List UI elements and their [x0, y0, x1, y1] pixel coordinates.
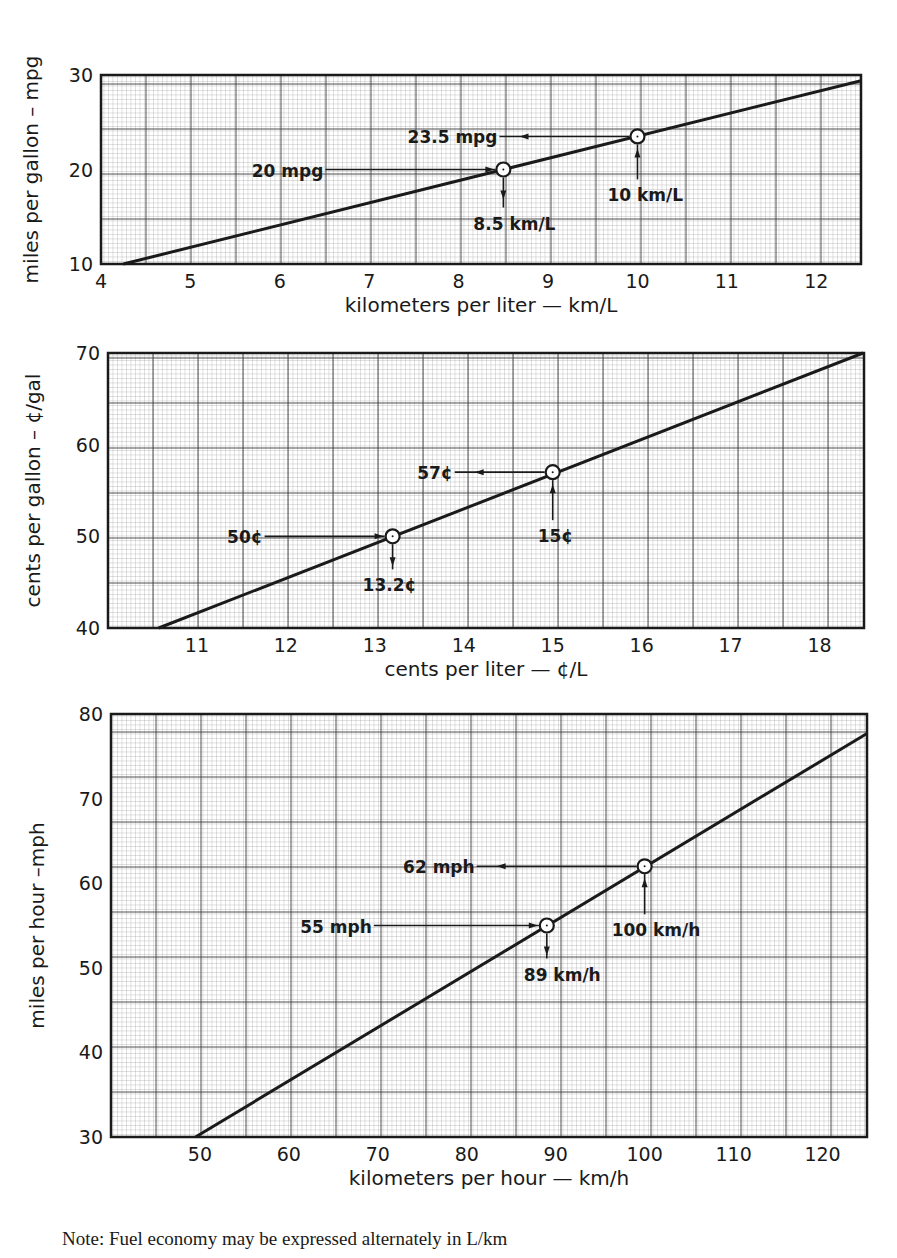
x-tick-label: 7: [363, 270, 375, 292]
y-tick-label: 40: [76, 617, 100, 639]
y-tick-label: 20: [69, 159, 93, 181]
x-value-label: 8.5 km/L: [473, 214, 555, 234]
x-tick-label: 50: [188, 1143, 212, 1165]
x-tick-label: 10: [625, 270, 649, 292]
y-tick-label: 50: [76, 525, 100, 547]
x-tick-label: 90: [544, 1143, 568, 1165]
y-value-label: 62 mph: [403, 857, 475, 877]
x-tick-label: 120: [804, 1143, 840, 1165]
y-tick-label: 40: [79, 1041, 103, 1063]
y-tick-label: 60: [76, 434, 100, 456]
x-tick-label: 14: [452, 634, 476, 656]
y-value-label: 20 mpg: [252, 161, 324, 181]
x-tick-label: 18: [807, 634, 831, 656]
x-tick-label: 110: [715, 1143, 751, 1165]
x-value-label: 10 km/L: [607, 185, 683, 205]
x-tick-label: 6: [274, 270, 286, 292]
y-tick-label: 30: [79, 1126, 103, 1148]
x-tick-label: 70: [366, 1143, 390, 1165]
y-axis-label: miles per hour –mph: [25, 822, 49, 1028]
x-tick-label: 60: [277, 1143, 301, 1165]
x-tick-label: 9: [542, 270, 554, 292]
x-tick-label: 15: [541, 634, 565, 656]
graph-paper: [108, 353, 864, 628]
x-tick-label: 100: [627, 1143, 663, 1165]
x-tick-label: 13: [363, 634, 387, 656]
y-tick-label: 70: [76, 342, 100, 364]
x-value-label: 13.2¢: [363, 575, 417, 595]
x-tick-label: 11: [715, 270, 739, 292]
x-axis-label: cents per liter — ¢/L: [385, 657, 589, 681]
y-tick-label: 50: [79, 957, 103, 979]
x-axis-label: kilometers per hour — km/h: [349, 1166, 629, 1190]
y-tick-label: 60: [79, 872, 103, 894]
x-value-label: 100 km/h: [612, 920, 701, 940]
x-value-label: 89 km/h: [524, 965, 601, 985]
y-value-label: 50¢: [227, 527, 263, 547]
y-tick-label: 70: [79, 788, 103, 810]
x-axis-label: kilometers per liter — km/L: [345, 293, 618, 317]
chart-fuel-economy: 456789101112102030kilometers per liter —…: [19, 56, 861, 317]
chart-speed: 5060708090100110120304050607080kilometer…: [25, 703, 867, 1190]
y-tick-label: 10: [69, 253, 93, 275]
x-tick-label: 5: [184, 270, 196, 292]
y-tick-label: 80: [79, 703, 103, 725]
x-tick-label: 16: [630, 634, 654, 656]
footnote: Note: Fuel economy may be expressed alte…: [62, 1228, 507, 1250]
x-value-label: 15¢: [538, 526, 574, 546]
conversion-charts: 456789101112102030kilometers per liter —…: [0, 0, 897, 1258]
y-value-label: 23.5 mpg: [408, 127, 498, 147]
x-tick-label: 80: [455, 1143, 479, 1165]
y-value-label: 55 mph: [300, 917, 372, 937]
x-tick-label: 4: [95, 270, 107, 292]
x-tick-label: 17: [718, 634, 742, 656]
x-tick-label: 12: [804, 270, 828, 292]
y-tick-label: 30: [69, 64, 93, 86]
chart-fuel-price: 111213141516171840506070cents per liter …: [21, 342, 864, 681]
x-tick-label: 12: [274, 634, 298, 656]
x-tick-label: 8: [453, 270, 465, 292]
y-axis-label: miles per gallon – mpg: [19, 56, 43, 284]
x-tick-label: 11: [185, 634, 209, 656]
y-value-label: 57¢: [417, 463, 453, 483]
y-axis-label: cents per gallon – ¢/gal: [21, 374, 45, 608]
